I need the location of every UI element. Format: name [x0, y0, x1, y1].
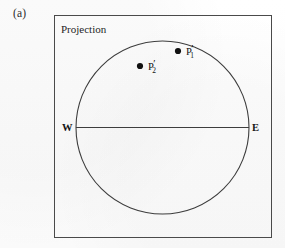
data-point-p2	[137, 63, 143, 69]
compass-label-west: W	[62, 122, 73, 134]
compass-label-east: E	[252, 122, 259, 134]
projection-plot	[0, 0, 285, 248]
projection-figure: (a) Projection W E P′1 P′2	[0, 0, 285, 248]
point-label-p2-subscript: 2	[152, 66, 156, 75]
point-label-p2: P′2	[148, 58, 156, 77]
data-point-p1	[175, 48, 181, 54]
point-label-p1-subscript: 1	[190, 51, 194, 60]
point-label-p1: P′1	[186, 43, 194, 62]
